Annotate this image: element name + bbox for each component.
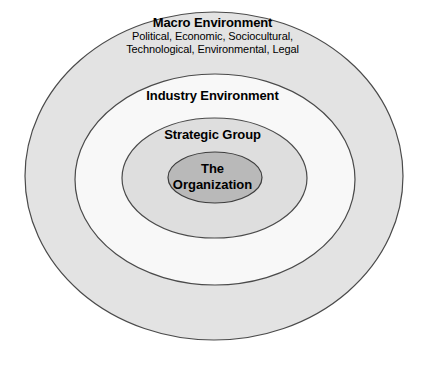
- organization-title-line-1: The: [0, 161, 425, 177]
- organization-title-line-2: Organization: [0, 177, 425, 193]
- macro-environment-label: Macro Environment Political, Economic, S…: [0, 15, 425, 56]
- macro-environment-subtitle: Political, Economic, Sociocultural, Tech…: [0, 30, 425, 56]
- macro-environment-subtitle-line-1: Political, Economic, Sociocultural,: [0, 30, 425, 43]
- macro-environment-title: Macro Environment: [0, 15, 425, 30]
- environment-layers-diagram: Macro Environment Political, Economic, S…: [0, 0, 425, 374]
- strategic-group-label: Strategic Group: [0, 127, 425, 142]
- strategic-group-title: Strategic Group: [0, 127, 425, 142]
- industry-environment-title: Industry Environment: [0, 88, 425, 103]
- macro-environment-subtitle-line-2: Technological, Environmental, Legal: [0, 43, 425, 56]
- industry-environment-label: Industry Environment: [0, 88, 425, 103]
- organization-label: The Organization: [0, 161, 425, 192]
